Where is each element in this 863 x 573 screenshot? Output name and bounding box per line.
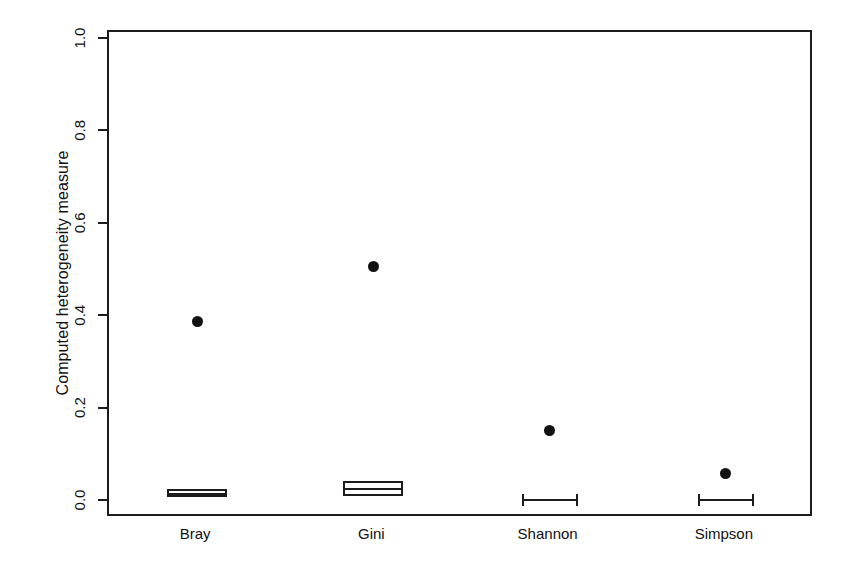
y-axis-tick-mark: [98, 407, 107, 409]
x-axis-label-shannon: Shannon: [478, 525, 618, 542]
y-axis-tick-mark: [98, 37, 107, 39]
boxplot-series-layer: [109, 32, 810, 514]
boxplot-group-simpson: [109, 32, 810, 514]
y-axis-tick-label: 1.0: [70, 15, 88, 61]
y-axis-tick-label: 0.0: [70, 477, 88, 523]
x-axis-label-simpson: Simpson: [654, 525, 794, 542]
y-axis-tick-mark: [98, 314, 107, 316]
y-axis-label: Computed heterogeneity measure: [52, 30, 74, 516]
y-axis-tick-label: 0.4: [70, 292, 88, 338]
flat-box-simpson: [698, 499, 754, 501]
y-axis-tick-mark: [98, 129, 107, 131]
y-axis-tick-mark: [98, 222, 107, 224]
outlier-point-simpson: [720, 468, 731, 479]
x-axis-label-gini: Gini: [301, 525, 441, 542]
whisker-cap-simpson-left: [698, 494, 700, 506]
boxplot-figure: Computed heterogeneity measure 0.00.20.4…: [0, 0, 863, 573]
y-axis-tick-label: 0.2: [70, 385, 88, 431]
y-axis-tick-label: 0.8: [70, 107, 88, 153]
y-axis-tick-mark: [98, 499, 107, 501]
whisker-cap-simpson-right: [752, 494, 754, 506]
x-axis-label-bray: Bray: [125, 525, 265, 542]
y-axis-tick-label: 0.6: [70, 200, 88, 246]
plot-area: [107, 30, 812, 516]
